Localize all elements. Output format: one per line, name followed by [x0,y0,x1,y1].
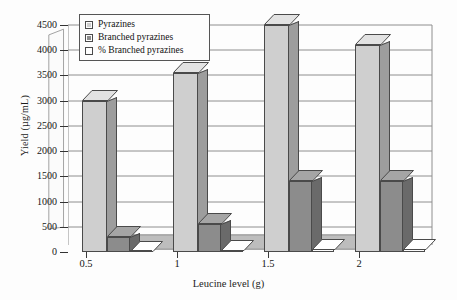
y-tick-label: 500 [42,222,57,232]
y-tick-label: 1500 [37,171,57,181]
legend-item-branched-pyrazines: Branched pyrazines [85,31,205,44]
legend-label: % Branched pyrazines [98,45,183,56]
bar-top [264,16,289,25]
bar-percent-branched-pyrazines-1 [221,238,243,252]
bar-percent-branched-pyrazines-0.5 [130,238,152,252]
bar-front [312,249,334,252]
bar-top [198,215,221,224]
legend-label: Pyrazines [98,19,135,30]
chart-legend: Pyrazines Branched pyrazines % Branched … [79,14,210,61]
bar-pyrazines-0.5 [82,92,107,252]
legend-swatch-icon [85,34,93,42]
bar-branched-pyrazines-2 [380,167,403,252]
chart-figure: Yield (µg/mL) 4500 [0,0,457,300]
bar-pyrazines-1.5 [264,16,289,252]
bar-front [173,73,198,252]
bar-front [380,181,403,252]
y-tick-label: 1000 [37,197,57,207]
bar-percent-branched-pyrazines-1.5 [312,238,334,252]
y-tick-label: 4500 [37,20,57,30]
bar-branched-pyrazines-1.5 [289,167,312,252]
legend-swatch-icon [85,47,93,55]
bar-branched-pyrazines-0.5 [107,222,130,252]
y-tick-label: 2000 [37,146,57,156]
x-tick-label-0: 0.5 [61,258,111,269]
y-tick-label: 3000 [37,96,57,106]
bar-pyrazines-2 [355,36,380,252]
bar-top [107,228,130,237]
bar-front [107,237,130,252]
x-axis-label: Leucine level (g) [0,278,457,289]
bar-top [82,92,107,101]
y-tick-label: 2500 [37,121,57,131]
y-tick-label: 4000 [37,45,57,55]
bar-front [82,101,107,252]
legend-swatch-icon [85,21,93,29]
bar-front [264,25,289,252]
bar-top [380,172,403,181]
y-tick-label: 0 [52,247,57,257]
y-axis-label: Yield (µg/mL) [19,56,30,196]
x-tick-label-3: 2 [334,258,384,269]
bar-front [289,181,312,252]
bar-pyrazines-1 [173,64,198,252]
bar-front [221,250,243,252]
bar-top [289,172,312,181]
bar-front [403,249,425,252]
bar-top [355,36,380,45]
bar-top [173,64,198,73]
bar-front [355,45,380,252]
bar-percent-branched-pyrazines-2 [403,238,425,252]
x-tick-label-1: 1 [152,258,202,269]
y-tick-label: 3500 [37,70,57,80]
bar-branched-pyrazines-1 [198,210,221,252]
bar-front [130,250,152,252]
x-tick-label-2: 1.5 [243,258,293,269]
legend-item-percent-branched-pyrazines: % Branched pyrazines [85,44,205,57]
bar-front [198,224,221,252]
legend-label: Branched pyrazines [98,32,173,43]
legend-item-pyrazines: Pyrazines [85,18,205,31]
